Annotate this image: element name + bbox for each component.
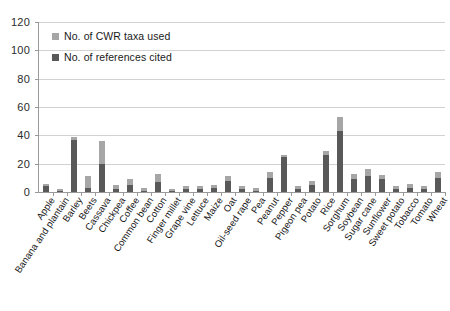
x-axis-tick: [445, 192, 446, 196]
bar-references-cited: [351, 179, 357, 192]
bar-group: [309, 22, 315, 192]
legend-label: No. of references cited: [64, 51, 172, 63]
bar-references-cited: [239, 189, 245, 192]
bar-group: [379, 22, 385, 192]
y-axis-tick-label: 0: [0, 186, 30, 198]
bar-references-cited: [379, 179, 385, 192]
bar-group: [43, 22, 49, 192]
bar-group: [393, 22, 399, 192]
bar-group: [365, 22, 371, 192]
bar-group: [323, 22, 329, 192]
bar-group: [253, 22, 259, 192]
legend-swatch-icon: [52, 54, 59, 61]
bar-group: [225, 22, 231, 192]
y-axis-tick-label: 120: [0, 16, 30, 28]
bar-group: [407, 22, 413, 192]
bar-group: [183, 22, 189, 192]
y-axis-tick-label: 20: [0, 158, 30, 170]
bar-references-cited: [281, 157, 287, 192]
bar-references-cited: [421, 189, 427, 192]
x-axis-labels: AppleBanana and plantainBarleyBeetsCassa…: [38, 195, 444, 311]
bar-references-cited: [393, 189, 399, 192]
y-axis-tick-label: 100: [0, 44, 30, 56]
bar-group: [351, 22, 357, 192]
bar-references-cited: [43, 186, 49, 192]
bar-group: [239, 22, 245, 192]
bar-references-cited: [155, 182, 161, 192]
bar-chart: 020406080100120 No. of CWR taxa usedNo. …: [0, 0, 450, 311]
bar-references-cited: [71, 140, 77, 192]
bar-references-cited: [99, 164, 105, 192]
bar-references-cited: [183, 189, 189, 192]
bar-references-cited: [197, 189, 203, 192]
bar-references-cited: [309, 185, 315, 192]
bar-references-cited: [337, 131, 343, 192]
bar-group: [435, 22, 441, 192]
legend-swatch-icon: [52, 33, 59, 40]
legend-label: No. of CWR taxa used: [64, 30, 170, 42]
bar-references-cited: [85, 188, 91, 192]
bar-references-cited: [141, 191, 147, 192]
bar-group: [267, 22, 273, 192]
bar-group: [295, 22, 301, 192]
legend-item: No. of CWR taxa used: [52, 30, 172, 42]
bar-group: [281, 22, 287, 192]
chart-legend: No. of CWR taxa usedNo. of references ci…: [52, 30, 172, 72]
bar-references-cited: [169, 191, 175, 192]
bar-references-cited: [267, 178, 273, 192]
bar-references-cited: [211, 188, 217, 192]
bar-references-cited: [253, 191, 259, 192]
bar-references-cited: [127, 185, 133, 192]
bar-references-cited: [435, 178, 441, 192]
bar-references-cited: [57, 191, 63, 192]
y-axis-tick-label: 80: [0, 73, 30, 85]
y-axis-tick-label: 60: [0, 101, 30, 113]
bar-references-cited: [113, 189, 119, 192]
y-axis-tick: [35, 192, 39, 193]
bar-group: [337, 22, 343, 192]
bar-references-cited: [323, 155, 329, 192]
bar-references-cited: [365, 176, 371, 192]
legend-item: No. of references cited: [52, 51, 172, 63]
bar-group: [211, 22, 217, 192]
y-axis-tick-label: 40: [0, 129, 30, 141]
bar-references-cited: [225, 181, 231, 192]
bar-group: [197, 22, 203, 192]
bar-references-cited: [295, 189, 301, 192]
bar-group: [421, 22, 427, 192]
bar-references-cited: [407, 188, 413, 192]
